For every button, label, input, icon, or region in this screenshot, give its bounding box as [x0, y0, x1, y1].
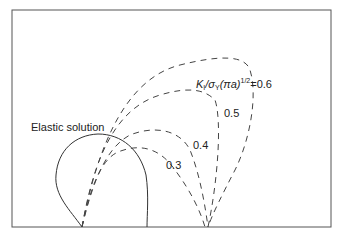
label-0.4: 0.4	[193, 139, 208, 151]
curve-0.3	[82, 148, 205, 227]
label-0.5: 0.5	[224, 107, 239, 119]
elastic-solution-label: Elastic solution	[31, 121, 104, 133]
curve-0.5	[82, 90, 219, 227]
curve-0.4	[82, 130, 208, 227]
label-0.3: 0.3	[166, 159, 181, 171]
plastic-zone-diagram: Elastic solution 0.3 0.4 0.5 KI/σY(πa)1/…	[0, 0, 343, 240]
parameter-label: KI/σY(πa)1/2=0.6	[196, 77, 272, 91]
